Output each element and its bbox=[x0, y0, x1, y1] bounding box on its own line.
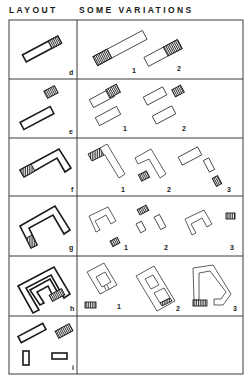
layout-g-drawing bbox=[20, 206, 70, 248]
layout-h-drawing bbox=[18, 267, 70, 313]
layout-label-f: f bbox=[71, 186, 74, 193]
variation-h-3 bbox=[193, 265, 231, 306]
row-e: e 1 2 bbox=[20, 84, 186, 135]
layout-label-h: h bbox=[70, 305, 74, 312]
variation-e-1 bbox=[89, 84, 120, 125]
variation-label-e-1: 1 bbox=[123, 125, 127, 132]
layout-variations-diagram: d 1 2 e bbox=[0, 0, 250, 383]
row-g: g 1 2 3 bbox=[20, 205, 235, 252]
variation-label-g-1: 1 bbox=[124, 244, 128, 251]
variation-label-g-2: 2 bbox=[164, 244, 168, 251]
variation-g-3 bbox=[185, 210, 235, 235]
variation-d-2 bbox=[144, 40, 182, 67]
variation-label-h-3: 3 bbox=[233, 305, 237, 312]
variation-d-1 bbox=[93, 30, 147, 65]
layout-e-main-block bbox=[20, 106, 54, 129]
layout-label-d: d bbox=[69, 69, 73, 76]
layout-label-e: e bbox=[69, 128, 73, 135]
variation-f-2 bbox=[135, 149, 166, 181]
layout-label-i: i bbox=[72, 364, 74, 371]
variation-e-2 bbox=[143, 85, 184, 124]
variation-h-2 bbox=[136, 266, 175, 311]
table-grid bbox=[9, 20, 243, 374]
layout-i-drawing bbox=[18, 323, 73, 365]
row-i: i bbox=[18, 323, 74, 371]
variation-label-d-2: 2 bbox=[177, 65, 181, 72]
row-h: h 1 2 3 bbox=[18, 263, 237, 313]
variation-label-e-2: 2 bbox=[182, 125, 186, 132]
row-d: d 1 2 bbox=[22, 30, 182, 76]
layout-d-drawing bbox=[22, 36, 61, 62]
variation-h-1 bbox=[85, 263, 117, 308]
layout-label-g: g bbox=[69, 244, 73, 252]
variation-g-1 bbox=[89, 207, 120, 247]
variation-f-1 bbox=[88, 144, 125, 178]
variation-label-h-1: 1 bbox=[117, 303, 121, 310]
variation-label-f-2: 2 bbox=[167, 186, 171, 193]
row-f: f 1 2 3 bbox=[20, 144, 231, 193]
variation-g-2 bbox=[136, 205, 166, 233]
variation-label-f-3: 3 bbox=[227, 186, 231, 193]
layout-e-hatched-block bbox=[44, 86, 58, 99]
variation-f-3 bbox=[178, 147, 222, 187]
variation-label-h-2: 2 bbox=[176, 305, 180, 312]
layout-f-drawing bbox=[20, 149, 71, 177]
variation-label-g-3: 3 bbox=[230, 244, 234, 251]
variation-label-d-1: 1 bbox=[132, 67, 136, 74]
variation-label-f-1: 1 bbox=[121, 186, 125, 193]
